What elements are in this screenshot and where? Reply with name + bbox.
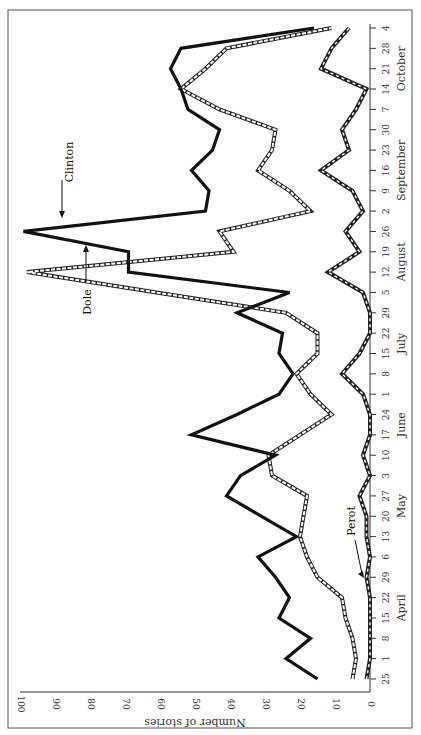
month-label: October — [395, 45, 408, 91]
value-tick-label: 60 — [156, 698, 166, 710]
date-tick-label: 22 — [381, 327, 391, 338]
date-tick-label: 7 — [381, 106, 391, 112]
value-tick-label: 80 — [86, 698, 96, 710]
annotations-group: ClintonDolePerot — [59, 142, 364, 578]
date-tick-label: 29 — [381, 571, 391, 583]
date-tick-label: 6 — [381, 554, 391, 560]
month-label: August — [395, 242, 408, 283]
date-tick-label: 3 — [381, 472, 391, 478]
date-tick-label: 2 — [381, 208, 391, 214]
month-label: July — [395, 332, 408, 355]
date-tick-label: 15 — [381, 612, 391, 624]
date-tick-label: 28 — [381, 42, 391, 54]
annotation-arrowhead — [358, 571, 364, 578]
date-tick-label: 16 — [381, 164, 391, 176]
date-tick-label: 24 — [381, 409, 391, 421]
date-tick-label: 12 — [381, 266, 391, 277]
annotation-arrowhead — [59, 211, 65, 218]
date-tick-label: 9 — [381, 188, 391, 194]
date-tick-label: 27 — [381, 490, 391, 502]
date-tick-label: 25 — [381, 673, 391, 685]
value-tick-label: 10 — [331, 698, 341, 710]
date-tick-label: 1 — [381, 656, 391, 662]
date-tick-label: 26 — [381, 225, 391, 237]
series-group — [23, 28, 370, 679]
value-tick-label: 40 — [226, 698, 236, 710]
value-tick-label: 100 — [16, 695, 26, 712]
value-tick-label: 30 — [261, 698, 271, 710]
annotation-arrow-line — [355, 540, 362, 574]
annotation-label-dole: Dole — [81, 289, 94, 314]
rotated-line-chart: 2518152229613202731017241815222951219262… — [0, 0, 421, 735]
date-tick-label: 5 — [381, 289, 391, 295]
month-label: April — [395, 594, 408, 623]
month-label: May — [395, 493, 408, 518]
series-line-perot-outline — [321, 28, 370, 679]
value-axis-title: Number of stories — [144, 716, 246, 729]
date-tick-label: 14 — [381, 83, 391, 95]
date-tick-label: 1 — [381, 391, 391, 397]
date-tick-label: 19 — [381, 246, 391, 258]
date-tick-label: 22 — [381, 592, 391, 603]
series-line-dole-outline — [27, 28, 356, 679]
date-tick-label: 13 — [381, 531, 391, 543]
annotation-label-clinton: Clinton — [63, 142, 76, 183]
series-line-dole — [27, 28, 356, 679]
annotation-label-perot: Perot — [345, 506, 358, 536]
date-tick-label: 30 — [381, 124, 391, 136]
series-line-clinton — [24, 28, 318, 679]
month-label: September — [395, 139, 408, 201]
value-tick-label: 70 — [121, 698, 131, 710]
value-tick-label: 20 — [296, 698, 306, 710]
month-label: June — [395, 412, 408, 438]
date-tick-label: 4 — [381, 25, 391, 31]
date-tick-label: 10 — [381, 449, 391, 461]
date-tick-label: 23 — [381, 144, 391, 156]
annotation-arrowhead — [83, 245, 89, 252]
value-tick-label: 90 — [51, 698, 61, 710]
date-tick-label: 8 — [381, 635, 391, 641]
date-tick-label: 17 — [381, 429, 391, 441]
value-tick-label: 0 — [366, 701, 376, 707]
date-tick-label: 20 — [381, 510, 391, 522]
date-tick-label: 15 — [381, 348, 391, 360]
date-tick-label: 8 — [381, 371, 391, 377]
date-tick-label: 21 — [381, 63, 391, 74]
value-tick-label: 50 — [191, 698, 201, 710]
date-tick-label: 29 — [381, 307, 391, 319]
